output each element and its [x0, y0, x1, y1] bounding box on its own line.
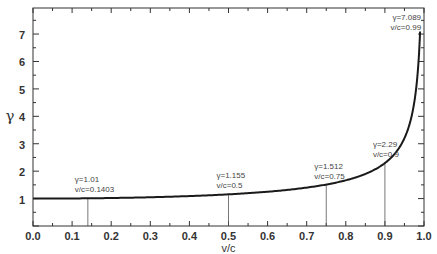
annotation-gamma: γ=7.089 — [392, 13, 421, 22]
y-tick-labels: 1234567 — [19, 29, 26, 206]
x-tick-labels: 0.00.10.20.30.40.50.60.70.80.91.0 — [25, 230, 431, 242]
lorentz-factor-chart: 0.00.10.20.30.40.50.60.70.80.91.0 123456… — [0, 0, 437, 254]
x-tick-label: 0.6 — [260, 230, 275, 242]
x-axis-label: v/c — [221, 242, 236, 254]
x-tick-label: 0.4 — [182, 230, 198, 242]
x-tick-label: 1.0 — [416, 230, 431, 242]
y-tick-label: 1 — [19, 194, 25, 206]
x-tick-label: 0.9 — [377, 230, 392, 242]
x-tick-label: 0.0 — [25, 230, 40, 242]
x-tick-label: 0.1 — [64, 230, 79, 242]
y-tick-label: 6 — [19, 56, 25, 68]
x-tick-label: 0.8 — [338, 230, 353, 242]
annotation-velocity: v/c=0.75 — [314, 172, 345, 181]
annotation-gamma: γ=1.512 — [314, 162, 343, 171]
x-tick-label: 0.2 — [104, 230, 119, 242]
y-tick-label: 3 — [19, 139, 25, 151]
annotation-velocity: v/c=0.1403 — [75, 185, 115, 194]
annotation-gamma: γ=2.29 — [373, 140, 398, 149]
annotation-gamma: γ=1.01 — [75, 175, 100, 184]
y-tick-label: 2 — [19, 166, 25, 178]
annotations: γ=1.01v/c=0.1403γ=1.155v/c=0.5γ=1.512v/c… — [75, 13, 422, 195]
x-tick-label: 0.3 — [143, 230, 158, 242]
y-tick-label: 7 — [19, 29, 25, 41]
annotation-velocity: v/c=0.5 — [217, 181, 244, 190]
y-tick-label: 4 — [19, 111, 26, 123]
x-tick-label: 0.7 — [299, 230, 314, 242]
x-tick-label: 0.5 — [221, 230, 236, 242]
annotation-gamma: γ=1.155 — [217, 171, 246, 180]
annotation-velocity: v/c=0.9 — [373, 150, 400, 159]
annotation-velocity: v/c=0.99 — [391, 23, 422, 32]
y-tick-label: 5 — [19, 84, 25, 96]
y-axis-label: γ — [6, 107, 15, 125]
